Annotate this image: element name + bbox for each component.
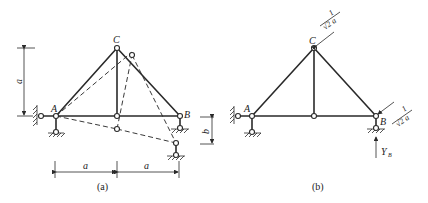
caption-b: (b) [312,181,324,193]
dimension-height-label: a [13,79,24,84]
label-C: C [113,34,120,45]
reaction-label: Y [381,146,388,157]
support-A-horizontal-b [230,106,234,124]
force-B-denominator: √2 a [394,113,411,129]
joint-C [115,46,120,51]
joint-A-horizontal-link-b [236,114,241,119]
joint-B-support [178,126,183,131]
joint-D-displaced [115,127,120,132]
label-A-b: A [243,103,251,114]
joint-A-support-b [250,130,255,135]
joint-B-displaced [174,141,179,146]
truss-b [238,48,376,132]
label-B-b: B [380,116,386,127]
dimension-span-left-label: a [83,160,88,171]
label-B: B [184,109,190,120]
dimension-spans: a a [55,160,179,178]
joint-D [115,114,120,119]
joint-B-displaced-support [174,153,179,158]
dimension-span-right-label: a [144,160,149,171]
caption-a: (a) [97,181,108,193]
reaction-subscript: B [388,152,392,158]
dimension-height: a [13,48,35,116]
force-C: 1 √2 a [316,8,340,46]
joint-D-b [312,114,317,119]
label-C-b: C [309,35,316,46]
figure-a: A C B a b a a (a) [13,34,214,193]
dimension-settlement: b [200,117,214,144]
reaction-YB: Y B [376,137,392,158]
joint-B-b [374,114,379,119]
joint-B [178,114,183,119]
joint-A-horizontal-link [39,114,44,119]
joint-C-displaced [130,53,135,58]
truss-diagram: A C B a b a a (a) [0,0,428,203]
force-C-denominator: √2 a [321,16,338,32]
joint-C-b [312,46,317,51]
joint-A-support [54,130,59,135]
joint-B-support-b [374,126,379,131]
support-A-horizontal [33,105,37,126]
label-A: A [50,103,58,114]
dimension-settlement-label: b [200,129,211,134]
joint-A [54,114,59,119]
joint-A-b [250,114,255,119]
figure-b: A C B 1 √2 a 1 √2 a Y B (b) [230,8,412,193]
force-B-numerator: 1 [400,104,408,114]
